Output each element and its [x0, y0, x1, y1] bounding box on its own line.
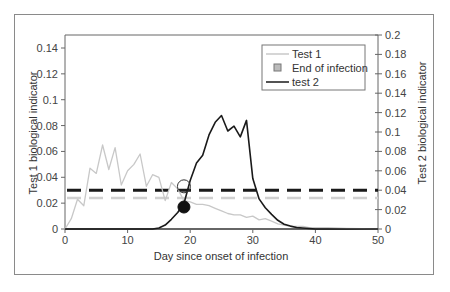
y-tick-label-right: 0.02 [385, 204, 406, 216]
series-lines [65, 116, 378, 230]
legend: Test 1 End of infection test 2 [262, 45, 368, 90]
x-tick-label: 50 [372, 234, 384, 246]
legend-end-swatch [274, 64, 281, 71]
y-tick-label-right: 0.16 [385, 68, 406, 80]
y-axis-left-label: Test 1 biological indicator [27, 71, 39, 194]
y-tick-label-left: 0.14 [37, 42, 58, 54]
y-tick-label-left: 0.08 [37, 120, 58, 132]
threshold-lines [67, 190, 378, 198]
y-tick-label-left: 0.06 [37, 145, 58, 157]
y-axis-right-label: Test 2 biological indicator [416, 61, 428, 184]
y-tick-label-left: 0.02 [37, 197, 58, 209]
legend-test1-label: Test 1 [292, 48, 321, 60]
y-tick-label-right: 0.1 [385, 126, 400, 138]
y-tick-label-right: 0.08 [385, 145, 406, 157]
y-tick-label-right: 0 [385, 223, 391, 235]
test2-end-marker [178, 201, 190, 213]
y-tick-label-left: 0 [52, 223, 58, 235]
x-tick-label: 20 [184, 234, 196, 246]
x-tick-label: 40 [309, 234, 321, 246]
y-tick-label-right: 0.14 [385, 87, 406, 99]
y-ticks-right: 00.020.040.060.080.10.120.140.160.180.2 [375, 29, 406, 235]
y-tick-label-right: 0.04 [385, 184, 406, 196]
y-tick-label-right: 0.12 [385, 107, 406, 119]
x-tick-label: 0 [62, 234, 68, 246]
legend-test2-label: test 2 [292, 76, 319, 88]
y-tick-label-left: 0.1 [43, 94, 58, 106]
test1-line [65, 145, 378, 229]
x-axis-label: Day since onset of infection [154, 250, 289, 262]
y-tick-label-right: 0.06 [385, 165, 406, 177]
x-tick-label: 30 [247, 234, 259, 246]
chart: 00.020.040.060.080.10.120.14 00.020.040.… [0, 0, 450, 292]
y-tick-label-right: 0.2 [385, 29, 400, 41]
y-tick-label-right: 0.18 [385, 48, 406, 60]
test2-line [65, 116, 378, 230]
y-tick-label-left: 0.12 [37, 68, 58, 80]
legend-end-label: End of infection [292, 62, 368, 74]
x-ticks: 01020304050 [62, 229, 384, 246]
y-ticks-left: 00.020.040.060.080.10.120.14 [37, 42, 65, 235]
y-tick-label-left: 0.04 [37, 171, 58, 183]
x-tick-label: 10 [121, 234, 133, 246]
